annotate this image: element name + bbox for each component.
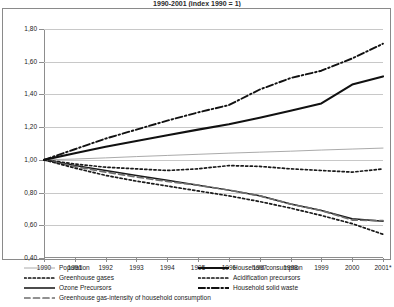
- legend-item[interactable]: Household consumption: [198, 263, 303, 273]
- y-tick-label: 1,40: [24, 91, 37, 98]
- legend-label: Greenhouse gas-intensity of household co…: [59, 294, 211, 302]
- chart-title: 1990-2001 (index 1990 = 1): [0, 0, 394, 7]
- chart-legend: PopulationGreenhouse gasesOzone Precurso…: [2, 263, 391, 305]
- legend-swatch-line: [24, 274, 55, 282]
- legend-swatch: [198, 264, 229, 272]
- legend-label: Acidification precursors: [233, 274, 300, 282]
- legend-label: Household solid waste: [233, 284, 298, 292]
- legend-item[interactable]: Ozone Precursors: [24, 283, 211, 293]
- y-tick-label: 1,60: [24, 58, 37, 65]
- legend-item[interactable]: Population: [24, 263, 211, 273]
- legend-swatch: [24, 284, 55, 292]
- x-tick: [321, 258, 322, 262]
- y-tick-label: 1,80: [24, 26, 37, 33]
- data-series-layer: [44, 29, 383, 258]
- x-tick: [198, 258, 199, 262]
- legend-swatch-line: [24, 264, 55, 272]
- x-tick: [383, 258, 384, 262]
- legend-swatch: [24, 264, 55, 272]
- legend-item[interactable]: Greenhouse gases: [24, 273, 211, 283]
- legend-swatch-line: [198, 264, 229, 272]
- legend-item[interactable]: Household solid waste: [198, 283, 303, 293]
- x-tick: [352, 258, 353, 262]
- legend-label: Population: [59, 264, 90, 272]
- x-tick: [75, 258, 76, 262]
- legend-swatch: [24, 294, 55, 302]
- legend-swatch: [198, 284, 229, 292]
- legend-column-right: Household consumptionAcidification precu…: [198, 263, 303, 293]
- legend-label: Greenhouse gases: [59, 274, 114, 282]
- x-tick: [229, 258, 230, 262]
- legend-column-left: PopulationGreenhouse gasesOzone Precurso…: [24, 263, 211, 303]
- y-tick-label: 0,80: [24, 189, 37, 196]
- series-line: [44, 44, 383, 160]
- x-tick: [167, 258, 168, 262]
- legend-swatch-line: [198, 274, 229, 282]
- x-tick: [136, 258, 137, 262]
- legend-label: Household consumption: [233, 264, 303, 272]
- x-tick: [291, 258, 292, 262]
- chart-frame: 1,801,601,401,201,000,800,600,40 1990199…: [2, 8, 391, 260]
- legend-label: Ozone Precursors: [59, 284, 111, 292]
- legend-swatch: [198, 274, 229, 282]
- y-tick-label: 0,60: [24, 222, 37, 229]
- legend-swatch: [24, 274, 55, 282]
- legend-swatch-line: [198, 284, 229, 292]
- legend-item[interactable]: Greenhouse gas-intensity of household co…: [24, 293, 211, 303]
- legend-item[interactable]: Acidification precursors: [198, 273, 303, 283]
- series-line: [44, 160, 383, 221]
- series-line: [44, 76, 383, 159]
- y-tick-label: 1,00: [24, 157, 37, 164]
- x-tick: [44, 258, 45, 262]
- x-tick: [260, 258, 261, 262]
- legend-swatch-line: [24, 294, 55, 302]
- chart-figure: 1990-2001 (index 1990 = 1) 1,801,601,401…: [0, 0, 394, 307]
- y-tick-label: 1,20: [24, 124, 37, 131]
- x-tick: [106, 258, 107, 262]
- y-tick-label: 0,40: [24, 255, 37, 262]
- plot-area: 1,801,601,401,201,000,800,600,40 1990199…: [44, 29, 383, 258]
- legend-swatch-line: [24, 284, 55, 292]
